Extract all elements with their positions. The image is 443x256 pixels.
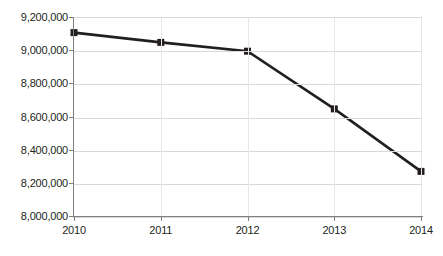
gridline-y-9000000 [73, 51, 421, 52]
x-axis-tick-marks [73, 217, 423, 222]
y-tick-mark-8200000 [69, 183, 73, 184]
y-tick-label-8800000: 8,800,000 [14, 78, 68, 89]
x-tick-mark-2014 [421, 217, 422, 221]
y-tick-label-9200000: 9,200,000 [14, 12, 68, 23]
y-tick-mark-8600000 [69, 117, 73, 118]
y-tick-mark-8400000 [69, 150, 73, 151]
y-tick-mark-8800000 [69, 83, 73, 84]
x-tick-label-2011: 2011 [131, 224, 191, 237]
gridline-y-8800000 [73, 84, 421, 85]
x-tick-mark-2010 [74, 217, 75, 221]
gridline-x-2011 [161, 18, 162, 216]
gridline-y-8600000 [73, 118, 421, 119]
line-chart-figure: Estimated number of offenses 9,200,0009,… [0, 0, 443, 256]
y-tick-label-8000000: 8,000,000 [14, 211, 68, 222]
x-tick-label-2012: 2012 [218, 224, 278, 237]
y-tick-label-8200000: 8,200,000 [14, 178, 68, 189]
gridline-y-8200000 [73, 184, 421, 185]
y-tick-label-8600000: 8,600,000 [14, 112, 68, 123]
y-axis-tick-marks [73, 17, 74, 217]
x-tick-label-2014: 2014 [391, 224, 443, 237]
gridline-x-2014 [421, 18, 422, 216]
x-tick-label-2010: 2010 [44, 224, 104, 237]
plot-area [73, 17, 422, 216]
gridline-y-8400000 [73, 151, 421, 152]
y-tick-mark-9200000 [69, 17, 73, 18]
y-tick-label-8400000: 8,400,000 [14, 145, 68, 156]
y-tick-label-9000000: 9,000,000 [14, 45, 68, 56]
data-point-2010 [71, 29, 78, 36]
x-axis-tick-labels: 20102011201220132014 [73, 224, 423, 240]
x-tick-mark-2011 [161, 217, 162, 221]
x-tick-mark-2013 [334, 217, 335, 221]
gridline-x-2012 [248, 18, 249, 216]
x-tick-label-2013: 2013 [304, 224, 364, 237]
x-tick-mark-2012 [248, 217, 249, 221]
y-tick-mark-9000000 [69, 50, 73, 51]
gridline-x-2013 [334, 18, 335, 216]
y-axis-tick-labels: 9,200,0009,000,0008,800,0008,600,0008,40… [14, 0, 68, 256]
